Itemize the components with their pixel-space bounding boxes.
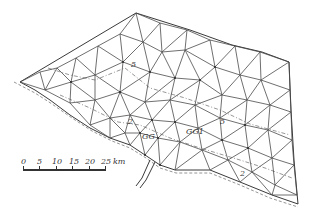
contour-label-2-mid: 2 (128, 118, 133, 126)
contour-label-5-right: 5 (220, 118, 225, 126)
scale-tick (23, 166, 24, 170)
scale-bar-line (23, 169, 106, 171)
scale-unit: km (113, 157, 125, 166)
scale-label-20: 20 (85, 157, 95, 166)
scale-label-0: 0 (21, 157, 26, 166)
scale-tick (72, 166, 73, 170)
scale-tick (39, 166, 40, 170)
scale-tick (56, 166, 57, 170)
mesh-nodes (70, 61, 249, 166)
contour-label-5-top: 5 (131, 61, 136, 69)
mesh-diagram (0, 0, 322, 214)
scale-label-25: 25 (101, 157, 111, 166)
river-inlet (136, 160, 155, 188)
gauge-label-gg: GG (142, 133, 155, 141)
gauge-label-gg1: GG1 (186, 128, 204, 136)
scale-label-15: 15 (69, 157, 79, 166)
scale-label-5: 5 (37, 157, 42, 166)
scale-label-10: 10 (52, 157, 62, 166)
contour-label-2-bottom: 2 (240, 170, 245, 178)
scale-bar: 0 5 10 15 20 25 km (20, 157, 130, 177)
scale-tick (105, 166, 106, 170)
scale-tick (89, 166, 90, 170)
